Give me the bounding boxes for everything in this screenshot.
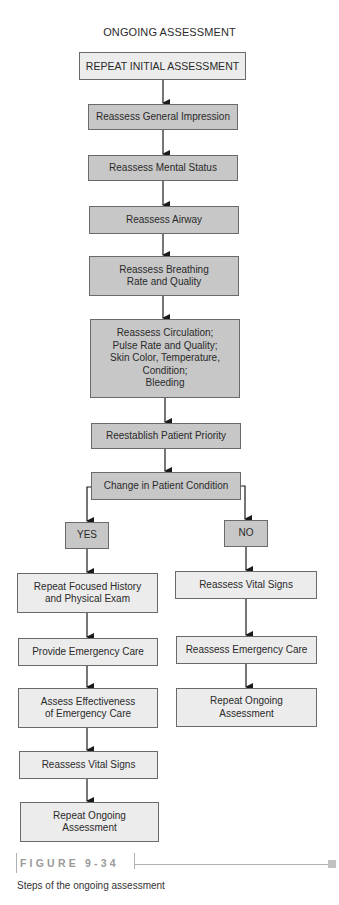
step-label: Repeat Ongoing Assessment: [53, 810, 126, 835]
yes-label: YES: [77, 529, 97, 542]
step-repeat-initial-assessment: REPEAT INITIAL ASSESSMENT: [79, 52, 246, 80]
step-provide-emergency-care: Provide Emergency Care: [18, 638, 158, 666]
step-label: Reassess Airway: [126, 214, 202, 227]
step-label: Repeat Ongoing Assessment: [210, 695, 283, 720]
step-label: Reassess General Impression: [96, 111, 230, 124]
step-reassess-vital-signs-no: Reassess Vital Signs: [175, 571, 317, 599]
step-reassess-airway: Reassess Airway: [89, 206, 239, 234]
step-label: Reassess Vital Signs: [199, 579, 293, 592]
figure-bar-left: [16, 853, 17, 873]
step-assess-effectiveness: Assess Effectiveness of Emergency Care: [18, 688, 158, 728]
figure-label: FIGURE 9-34: [20, 857, 119, 869]
step-repeat-ongoing-assessment-no: Repeat Ongoing Assessment: [176, 688, 317, 727]
figure-rule: [134, 864, 328, 865]
decision-yes: YES: [65, 522, 109, 549]
step-reassess-circulation: Reassess Circulation; Pulse Rate and Qua…: [90, 319, 240, 398]
step-label: Reestablish Patient Priority: [106, 430, 226, 443]
step-reassess-emergency-care: Reassess Emergency Care: [176, 636, 317, 664]
step-label: Reassess Breathing Rate and Quality: [119, 264, 209, 289]
step-label: Assess Effectiveness of Emergency Care: [41, 696, 135, 721]
step-label: Reassess Emergency Care: [186, 644, 308, 657]
figure-square-marker: [328, 860, 336, 868]
step-reassess-breathing: Reassess Breathing Rate and Quality: [89, 256, 239, 296]
step-reassess-general-impression: Reassess General Impression: [88, 104, 238, 130]
step-label: Change in Patient Condition: [104, 480, 229, 493]
flowchart-title: ONGOING ASSESSMENT: [0, 26, 339, 38]
step-repeat-focused-history: Repeat Focused History and Physical Exam: [17, 573, 158, 613]
step-label: Reassess Circulation; Pulse Rate and Qua…: [110, 327, 220, 390]
step-reassess-mental-status: Reassess Mental Status: [88, 155, 238, 181]
decision-no: NO: [224, 520, 268, 547]
step-repeat-ongoing-assessment-yes: Repeat Ongoing Assessment: [20, 802, 159, 842]
decision-change-in-patient-condition: Change in Patient Condition: [91, 472, 241, 500]
step-reestablish-patient-priority: Reestablish Patient Priority: [91, 423, 241, 449]
step-label: Reassess Vital Signs: [42, 759, 136, 772]
step-label: Provide Emergency Care: [32, 646, 144, 659]
step-reassess-vital-signs-yes: Reassess Vital Signs: [19, 751, 158, 779]
step-label: Repeat Focused History and Physical Exam: [34, 581, 141, 606]
figure-caption: Steps of the ongoing assessment: [17, 880, 165, 891]
step-label: Reassess Mental Status: [109, 162, 217, 175]
no-label: NO: [239, 527, 254, 540]
step-label: REPEAT INITIAL ASSESSMENT: [86, 60, 239, 73]
figure-bar-divider: [134, 853, 135, 869]
